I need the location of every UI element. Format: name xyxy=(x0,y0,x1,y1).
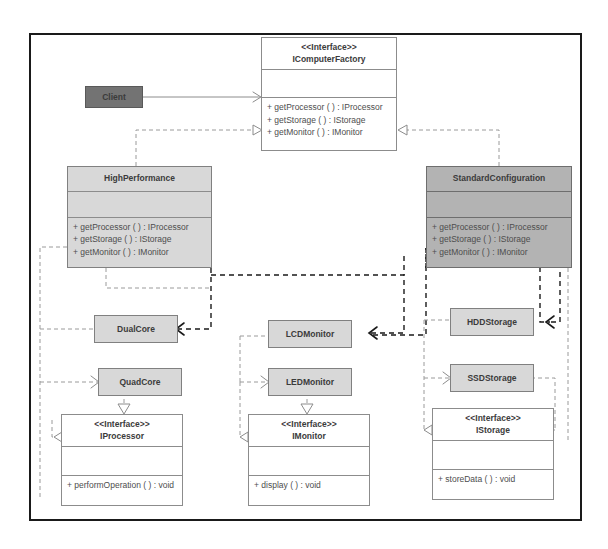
link-quadcore-realizes-iprocessor xyxy=(118,399,130,414)
lcdmonitor-label: LCDMonitor xyxy=(286,329,335,339)
standardconfiguration-name: StandardConfiguration xyxy=(453,173,546,183)
iprocessor-attributes xyxy=(62,446,182,475)
class-box-ssdstorage[interactable]: SSDStorage xyxy=(450,364,534,392)
iprocessor-stereotype: <<Interface>> xyxy=(64,419,180,431)
class-box-standardconfiguration[interactable]: StandardConfiguration + getProcessor ( )… xyxy=(426,166,572,268)
link-highperformance-to-dualcore xyxy=(106,268,210,288)
icomputerfactory-stereotype: <<Interface>> xyxy=(264,42,394,54)
hddstorage-label: HDDStorage xyxy=(467,317,517,327)
link-highperformance-to-dualcore-dependency xyxy=(176,268,211,335)
imonitor-attributes xyxy=(249,446,369,475)
istorage-name: IStorage xyxy=(476,425,510,435)
standardconfiguration-attributes xyxy=(427,191,571,217)
class-box-hddstorage[interactable]: HDDStorage xyxy=(450,308,534,336)
quadcore-label: QuadCore xyxy=(119,377,160,387)
class-box-icomputerfactory[interactable]: <<Interface>> IComputerFactory + getProc… xyxy=(261,37,397,151)
link-standardconfiguration-realizes-icomputerfactory xyxy=(398,125,499,166)
iprocessor-name: IProcessor xyxy=(100,431,144,441)
class-box-highperformance[interactable]: HighPerformance + getProcessor ( ) : IPr… xyxy=(67,166,212,268)
link-highperformance-realizes-icomputerfactory xyxy=(136,125,262,166)
link-standardconfiguration-to-lcdmonitor-dependency xyxy=(372,248,426,335)
class-box-imonitor[interactable]: <<Interface>> IMonitor + display ( ) : v… xyxy=(248,414,370,506)
class-box-lcdmonitor[interactable]: LCDMonitor xyxy=(268,320,352,348)
class-box-ledmonitor[interactable]: LEDMonitor xyxy=(268,368,352,396)
class-box-istorage[interactable]: <<Interface>> IStorage + storeData ( ) :… xyxy=(432,408,554,500)
operation: + getMonitor ( ) : IMonitor xyxy=(432,246,571,259)
link-ledmonitor-realizes-imonitor xyxy=(301,399,313,414)
istorage-stereotype: <<Interface>> xyxy=(435,413,551,425)
icomputerfactory-attributes xyxy=(262,69,396,97)
class-box-quadcore[interactable]: QuadCore xyxy=(98,368,182,396)
operation: + getMonitor ( ) : IMonitor xyxy=(267,126,396,139)
link-imonitor-incoming-realization xyxy=(240,382,248,442)
class-box-iprocessor[interactable]: <<Interface>> IProcessor + performOperat… xyxy=(61,414,183,506)
operation: + performOperation ( ) : void xyxy=(67,479,182,492)
class-box-dualcore[interactable]: DualCore xyxy=(94,315,178,343)
imonitor-stereotype: <<Interface>> xyxy=(251,419,367,431)
icomputerfactory-name: IComputerFactory xyxy=(292,54,365,64)
dualcore-label: DualCore xyxy=(117,324,155,334)
imonitor-operations: + display ( ) : void xyxy=(249,475,369,510)
highperformance-operations: + getProcessor ( ) : IProcessor + getSto… xyxy=(68,217,211,262)
icomputerfactory-operations: + getProcessor ( ) : IProcessor + getSto… xyxy=(262,97,396,142)
standardconfiguration-header: StandardConfiguration xyxy=(427,167,571,191)
iprocessor-operations: + performOperation ( ) : void xyxy=(62,475,182,510)
operation: + storeData ( ) : void xyxy=(438,473,553,486)
operation: + getProcessor ( ) : IProcessor xyxy=(432,221,571,234)
class-box-client[interactable]: Client xyxy=(85,86,143,108)
operation: + getStorage ( ) : IStorage xyxy=(432,233,571,246)
operation: + getStorage ( ) : IStorage xyxy=(267,114,396,127)
operation: + getMonitor ( ) : IMonitor xyxy=(73,246,211,259)
highperformance-name: HighPerformance xyxy=(104,173,175,183)
operation: + display ( ) : void xyxy=(254,479,369,492)
ledmonitor-label: LEDMonitor xyxy=(286,377,334,387)
ssdstorage-label: SSDStorage xyxy=(467,373,516,383)
istorage-attributes xyxy=(433,440,553,469)
operation: + getProcessor ( ) : IProcessor xyxy=(73,221,211,234)
iprocessor-header: <<Interface>> IProcessor xyxy=(62,415,182,446)
icomputerfactory-header: <<Interface>> IComputerFactory xyxy=(262,38,396,69)
operation: + getProcessor ( ) : IProcessor xyxy=(267,101,396,114)
client-label: Client xyxy=(102,92,126,102)
highperformance-header: HighPerformance xyxy=(68,167,211,191)
istorage-header: <<Interface>> IStorage xyxy=(433,409,553,440)
imonitor-header: <<Interface>> IMonitor xyxy=(249,415,369,446)
standardconfiguration-operations: + getProcessor ( ) : IProcessor + getSto… xyxy=(427,217,571,262)
istorage-operations: + storeData ( ) : void xyxy=(433,469,553,504)
link-lcdmonitor-left-corridor xyxy=(240,336,269,388)
link-client-to-icomputerfactory xyxy=(143,92,261,102)
imonitor-name: IMonitor xyxy=(292,431,326,441)
highperformance-attributes xyxy=(68,191,211,217)
operation: + getStorage ( ) : IStorage xyxy=(73,233,211,246)
uml-class-diagram: IComputerFactory (solid light arrow) --> xyxy=(0,0,608,549)
